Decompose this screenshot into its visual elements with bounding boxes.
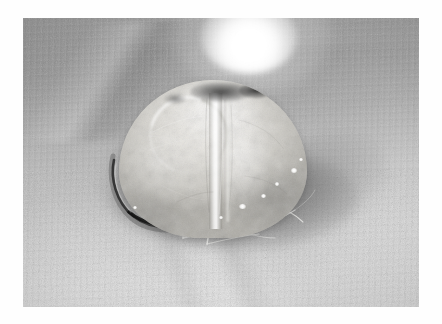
image-canvas: Explanted dome-shaped tissue specimen re… xyxy=(0,0,442,324)
photograph xyxy=(23,18,419,307)
photo-vignette xyxy=(23,18,419,307)
